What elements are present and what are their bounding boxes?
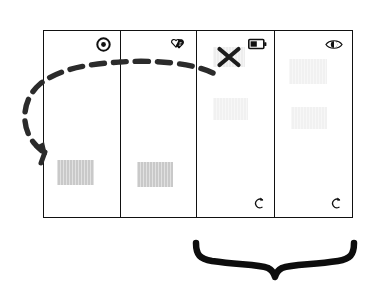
battery-icon xyxy=(247,36,267,52)
reload-arrow-icon[interactable] xyxy=(330,196,344,212)
content-block xyxy=(57,160,94,185)
panel-4[interactable] xyxy=(275,31,351,217)
panel-2[interactable] xyxy=(121,31,197,217)
panel-3[interactable] xyxy=(197,31,275,217)
content-block xyxy=(137,162,173,187)
content-block xyxy=(291,107,327,129)
content-block xyxy=(213,47,245,67)
reload-arrow-icon[interactable] xyxy=(253,196,267,212)
target-dot-icon xyxy=(93,36,113,52)
handshake-icon xyxy=(169,36,189,52)
panel-1[interactable] xyxy=(44,31,121,217)
content-block xyxy=(289,59,327,84)
diagram-stage xyxy=(0,0,373,289)
panel-strip xyxy=(43,30,353,218)
content-block xyxy=(213,98,248,120)
eye-icon xyxy=(324,36,344,52)
